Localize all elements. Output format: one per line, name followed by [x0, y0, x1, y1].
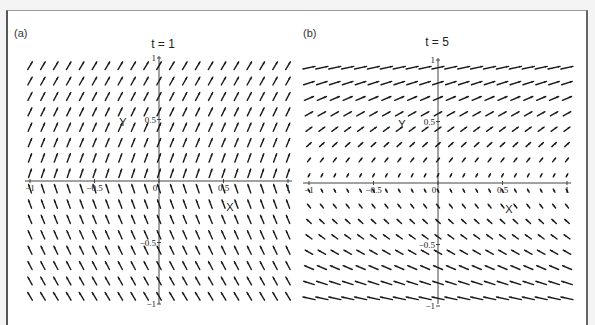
x-axis-label: X	[505, 203, 513, 215]
y-axis-label: Y	[398, 118, 406, 130]
x-tick-label: 0.5	[497, 185, 509, 195]
y-tick-label: 1	[152, 53, 157, 63]
y-tick-label: −1	[425, 301, 435, 311]
x-tick-label: −0.5	[86, 183, 103, 193]
y-tick-label: −1	[146, 299, 156, 309]
direction-field-plots: t = 1 −1−0.500.5110.5−0.5−1XY t = 5 −1−0…	[0, 0, 595, 325]
x-tick-label: 0	[153, 183, 158, 193]
x-tick-label: 0	[432, 185, 437, 195]
y-tick-label: 0.5	[145, 115, 157, 125]
panel-a-title: t = 1	[151, 37, 175, 51]
x-tick-label: 1	[286, 183, 291, 193]
y-tick-label: 1	[431, 55, 436, 65]
y-tick-label: −0.5	[140, 238, 157, 248]
panel-b-plot: t = 5 −1−0.500.5110.5−0.5−1XY	[303, 35, 573, 311]
y-tick-label: −0.5	[419, 240, 436, 250]
x-axis-label: X	[226, 201, 234, 213]
panel-a-plot: t = 1 −1−0.500.5110.5−0.5−1XY	[25, 37, 292, 309]
panel-b-title: t = 5	[425, 35, 449, 49]
x-tick-label: −0.5	[365, 185, 382, 195]
x-tick-label: 0.5	[218, 183, 230, 193]
x-tick-label: −1	[25, 183, 35, 193]
y-axis-label: Y	[119, 116, 127, 128]
y-tick-label: 0.5	[424, 117, 436, 127]
x-tick-label: −1	[304, 185, 314, 195]
x-tick-label: 1	[565, 185, 570, 195]
